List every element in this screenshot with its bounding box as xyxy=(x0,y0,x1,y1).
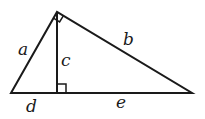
triangle-svg: a b c d e xyxy=(0,0,205,119)
label-a: a xyxy=(18,39,28,59)
label-e: e xyxy=(116,92,126,112)
right-angle-marker-foot xyxy=(57,84,66,93)
triangle-diagram: a b c d e xyxy=(0,0,205,119)
triangle-outline xyxy=(11,12,192,93)
label-b: b xyxy=(123,29,134,49)
label-d: d xyxy=(26,96,37,116)
label-c: c xyxy=(61,50,71,70)
